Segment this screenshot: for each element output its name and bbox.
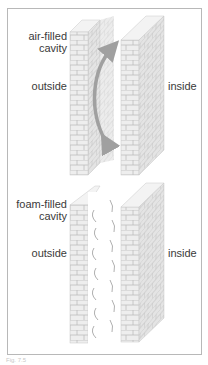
inner-brick-wall [121,16,164,175]
inside-label-bottom: inside [168,247,197,259]
foam-cavity-label: foam-filled cavity [10,198,67,222]
air-cavity-panel [70,16,164,175]
air-cavity-label-line2: cavity [14,42,67,54]
inner-brick-wall-2 [121,183,164,342]
foam-insulation [88,192,118,344]
cavity-wall-illustration [0,0,208,365]
foam-cavity-label-line2: cavity [10,210,67,222]
outside-label-top: outside [14,80,67,92]
air-cavity-label: air-filled cavity [14,30,67,54]
figure-caption: Fig. 7.5 [6,357,26,363]
foam-cavity-label-line1: foam-filled [10,198,67,210]
outside-label-bottom: outside [14,247,67,259]
inside-label-top: inside [168,80,197,92]
foam-cavity-panel [70,183,164,344]
air-cavity-label-line1: air-filled [14,30,67,42]
outer-brick-wall [70,16,114,175]
